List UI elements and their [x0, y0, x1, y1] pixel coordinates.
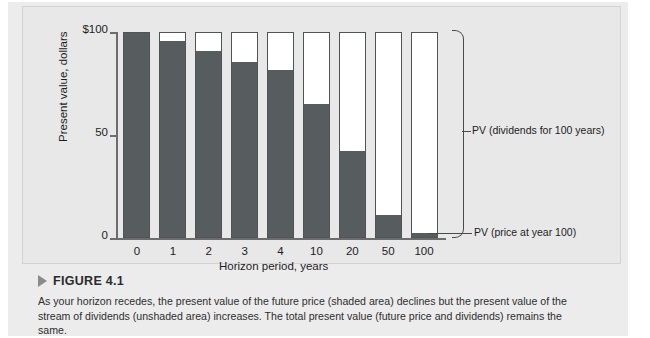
figure-caption-text: As your horizon recedes, the present val…	[38, 294, 583, 338]
x-axis-line	[116, 238, 446, 240]
chart-panel: Present value, dollars $100500 012341020…	[22, 6, 621, 264]
bar-shaded-segment-0	[124, 33, 149, 237]
bar-shaded-segment-10	[304, 104, 329, 237]
brace-tip-line	[462, 131, 471, 132]
bar-shaded-segment-50	[376, 215, 401, 237]
x-tick-label-0: 0	[134, 245, 140, 257]
bar-20[interactable]	[339, 32, 366, 238]
x-tick-label-10: 10	[310, 245, 323, 257]
bar-slot-3[interactable]: 3	[227, 32, 263, 238]
bar-group: 01234102050100	[119, 32, 442, 238]
bar-1[interactable]	[159, 32, 186, 238]
bar-shaded-segment-3	[232, 62, 257, 237]
bar-2[interactable]	[195, 32, 222, 238]
bar-slot-2[interactable]: 2	[191, 32, 227, 238]
bar-slot-4[interactable]: 4	[263, 32, 299, 238]
annotation-label-dividends: PV (dividends for 100 years)	[472, 124, 604, 136]
bar-slot-1[interactable]: 1	[155, 32, 191, 238]
x-tick-label-1: 1	[170, 245, 176, 257]
y-tick-mark	[110, 238, 116, 240]
figure-label: FIGURE 4.1	[53, 274, 124, 288]
x-tick-label-3: 3	[241, 245, 247, 257]
figure-page: Present value, dollars $100500 012341020…	[0, 0, 650, 338]
bar-10[interactable]	[303, 32, 330, 238]
bar-0[interactable]	[123, 32, 150, 238]
triangle-right-icon	[38, 275, 47, 287]
bar-shaded-segment-1	[160, 41, 185, 237]
x-tick-label-2: 2	[206, 245, 212, 257]
y-axis-title: Present value, dollars	[57, 31, 69, 142]
y-axis-line	[116, 32, 118, 240]
chart-annotations: PV (dividends for 100 years) PV (price a…	[448, 25, 618, 250]
figure-heading: FIGURE 4.1	[38, 274, 598, 288]
x-axis-title: Horizon period, years	[219, 260, 328, 272]
y-tick-label: $100	[82, 23, 108, 35]
bar-slot-10[interactable]: 10	[298, 32, 334, 238]
annotation-label-price: PV (price at year 100)	[474, 226, 576, 238]
bar-50[interactable]	[375, 32, 402, 238]
leader-line-price	[428, 233, 472, 234]
x-tick-label-50: 50	[382, 245, 395, 257]
brace-dividends-icon	[452, 30, 464, 238]
y-tick-mark	[110, 135, 116, 137]
x-tick-label-20: 20	[346, 245, 359, 257]
bar-shaded-segment-2	[196, 51, 221, 237]
y-tick-label: 50	[95, 126, 108, 138]
figure-caption-block: FIGURE 4.1 As your horizon recedes, the …	[38, 274, 598, 338]
bar-slot-0[interactable]: 0	[119, 32, 155, 238]
y-tick-mark	[110, 32, 116, 34]
bar-3[interactable]	[231, 32, 258, 238]
bar-slot-100[interactable]: 100	[406, 32, 442, 238]
bar-slot-20[interactable]: 20	[334, 32, 370, 238]
bar-shaded-segment-20	[340, 151, 365, 237]
bar-slot-50[interactable]: 50	[370, 32, 406, 238]
y-tick-label: 0	[102, 229, 108, 241]
bar-4[interactable]	[267, 32, 294, 238]
plot-area: $100500 01234102050100	[116, 32, 442, 240]
x-tick-label-4: 4	[277, 245, 283, 257]
bar-shaded-segment-4	[268, 70, 293, 237]
x-tick-label-100: 100	[414, 245, 433, 257]
bar-100[interactable]	[411, 32, 438, 238]
